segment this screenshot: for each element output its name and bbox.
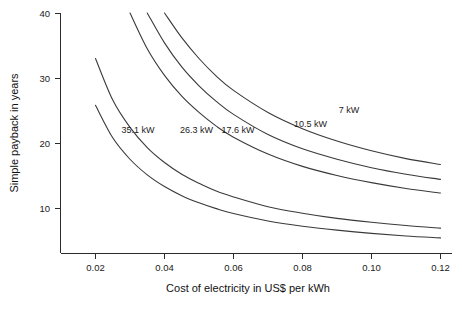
- series-label-7-kw: 7 kW: [339, 105, 360, 115]
- y-tick-label-30: 30: [39, 73, 50, 84]
- x-tick-label-012: 0.12: [431, 262, 450, 273]
- curve-label-group: 35.1 kW26.3 kW17.6 kW10.5 kW7 kW: [121, 105, 359, 135]
- x-axis-title: Cost of electricity in US$ per kWh: [166, 282, 330, 294]
- y-tick-label-40: 40: [39, 8, 50, 19]
- y-axis-ticks: [55, 14, 60, 209]
- series-label-26-3-kw: 26.3 kW: [180, 125, 214, 135]
- curve-17-6-kw: [130, 13, 441, 193]
- x-tick-label-006: 0.06: [224, 262, 243, 273]
- x-tick-label-004: 0.04: [155, 262, 174, 273]
- payback-vs-electricity-cost-chart: 40 30 20 10 0.02 0.04 0.06 0.08 0.10 0.1…: [0, 0, 462, 311]
- x-tick-label-002: 0.02: [86, 262, 105, 273]
- series-label-17-6-kw: 17.6 kW: [221, 125, 255, 135]
- series-label-35-1-kw: 35.1 kW: [121, 125, 155, 135]
- curve-7-kw: [165, 13, 441, 164]
- x-tick-label-008: 0.08: [293, 262, 312, 273]
- x-axis-ticks: [96, 254, 441, 259]
- y-tick-label-10: 10: [39, 203, 50, 214]
- y-tick-label-20: 20: [39, 138, 50, 149]
- curve-26-3-kw: [96, 59, 441, 229]
- x-tick-label-010: 0.10: [362, 262, 381, 273]
- y-axis-title: Simple payback in years: [8, 73, 20, 193]
- chart-container: 40 30 20 10 0.02 0.04 0.06 0.08 0.10 0.1…: [0, 0, 462, 311]
- curve-10-5-kw: [147, 13, 440, 179]
- series-label-10-5-kw: 10.5 kW: [294, 119, 328, 129]
